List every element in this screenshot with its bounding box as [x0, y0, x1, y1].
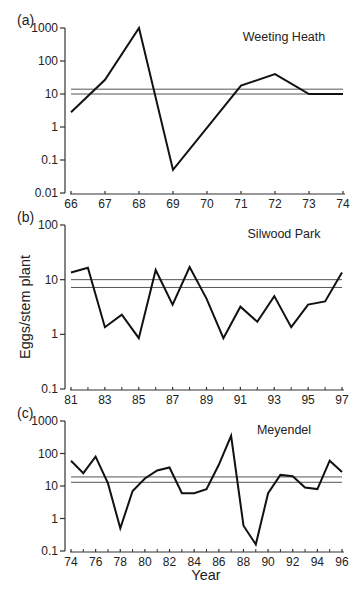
y-tick-label: 0.1 [41, 544, 58, 558]
x-tick-label: 73 [302, 197, 316, 211]
x-tick-label: 97 [335, 393, 349, 407]
y-tick-label: 0.01 [35, 186, 59, 200]
x-tick-label: 69 [166, 197, 180, 211]
data-series-line [71, 436, 342, 545]
y-tick-label: 0.1 [41, 382, 58, 396]
x-tick-label: 80 [138, 555, 152, 569]
y-tick-label: 100 [38, 218, 58, 232]
site-title: Meyendel [257, 423, 311, 437]
x-tick-label: 76 [89, 555, 103, 569]
y-tick-label: 10 [45, 273, 59, 287]
x-tick-label: 94 [311, 555, 325, 569]
x-tick-label: 90 [261, 555, 275, 569]
y-tick-label: 1000 [31, 21, 58, 35]
y-tick-label: 10 [45, 479, 59, 493]
x-tick-label: 96 [335, 555, 349, 569]
x-axis-title: Year [191, 567, 220, 583]
site-title: Weeting Heath [243, 30, 326, 44]
figure: 0.010.11101001000666768697071727374(a)We… [0, 0, 361, 592]
x-tick-label: 72 [268, 197, 282, 211]
x-tick-label: 85 [132, 393, 146, 407]
panel-meyendel: 0.11101001000747678808284868890929496(c)… [17, 405, 349, 569]
y-tick-label: 100 [38, 54, 58, 68]
x-tick-label: 91 [234, 393, 248, 407]
y-tick-label: 100 [38, 447, 58, 461]
panel-weeting-heath: 0.010.11101001000666768697071727374(a)We… [17, 12, 350, 211]
y-tick-label: 1000 [31, 414, 58, 428]
y-tick-label: 1 [51, 327, 58, 341]
x-tick-label: 68 [132, 197, 146, 211]
data-series-line [71, 267, 342, 338]
panel-label: (b) [17, 209, 34, 225]
y-tick-label: 10 [45, 87, 59, 101]
x-tick-label: 83 [98, 393, 112, 407]
x-tick-label: 74 [64, 555, 78, 569]
panel-silwood-park: 0.1110100818385878991939597(b)Silwood Pa… [17, 209, 349, 407]
x-tick-label: 78 [114, 555, 128, 569]
y-tick-label: 0.1 [41, 153, 58, 167]
x-tick-label: 81 [64, 393, 78, 407]
x-tick-label: 88 [237, 555, 251, 569]
x-tick-label: 95 [301, 393, 315, 407]
y-tick-label: 1 [51, 120, 58, 134]
y-tick-label: 1 [51, 512, 58, 526]
x-tick-label: 67 [98, 197, 112, 211]
panel-label: (c) [17, 405, 33, 421]
y-axis-title: Eggs/stem plant [17, 255, 33, 359]
x-tick-label: 66 [64, 197, 78, 211]
x-tick-label: 74 [336, 197, 350, 211]
panel-label: (a) [17, 12, 34, 28]
site-title: Silwood Park [248, 227, 322, 241]
x-tick-label: 82 [163, 555, 177, 569]
x-tick-label: 87 [166, 393, 180, 407]
x-tick-label: 92 [286, 555, 300, 569]
x-tick-label: 89 [200, 393, 214, 407]
x-tick-label: 93 [268, 393, 282, 407]
x-tick-label: 70 [200, 197, 214, 211]
x-tick-label: 71 [234, 197, 248, 211]
data-series-line [71, 28, 343, 170]
